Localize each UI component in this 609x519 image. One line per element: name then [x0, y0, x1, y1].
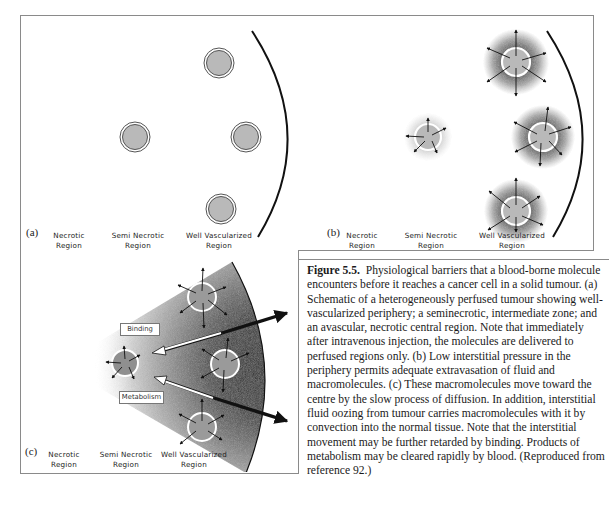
vessel-well-vascularized — [511, 105, 575, 169]
region-label-semi-necrotic: Semi Necrotic Region — [405, 231, 458, 251]
metabolism-label: Metabolism — [119, 391, 164, 404]
vessel — [204, 48, 234, 78]
region-label-semi-necrotic: Semi Necrotic Region — [112, 231, 165, 251]
region-label-line: Region — [48, 460, 79, 470]
region-label-line: Region — [100, 460, 153, 470]
region-label-line: Necrotic — [346, 231, 377, 241]
panel-b-label: (b) — [327, 226, 340, 238]
region-label-line: Well Vascularized — [161, 450, 227, 460]
vessel-well-vascularized — [483, 29, 549, 96]
region-label-necrotic: Necrotic Region — [346, 231, 377, 251]
panel-a-graphics — [120, 31, 288, 237]
figure-number: Figure 5.5. — [307, 264, 360, 277]
figure-caption: Figure 5.5. Physiological barriers that … — [307, 264, 607, 478]
region-label-line: Necrotic — [53, 231, 84, 241]
region-label-line: Region — [346, 241, 377, 251]
region-label-line: Region — [405, 241, 458, 251]
vessel — [231, 122, 261, 152]
region-label-line: Region — [186, 241, 252, 251]
figure-caption-text: Physiological barriers that a blood-born… — [307, 264, 605, 477]
vessel — [120, 122, 150, 152]
vessel — [206, 194, 236, 224]
region-label-line: Semi Necrotic — [100, 450, 153, 460]
region-label-line: Well Vascularized — [479, 231, 545, 241]
region-label-line: Semi Necrotic — [112, 231, 165, 241]
region-label-line: Semi Necrotic — [405, 231, 458, 241]
region-label-well-vascularized: Well Vascularized Region — [186, 231, 252, 251]
region-label-line: Region — [53, 241, 84, 251]
region-label-well-vascularized: Well Vascularized Region — [479, 231, 545, 251]
region-label-line: Region — [479, 241, 545, 251]
region-label-line: Region — [161, 460, 227, 470]
region-label-line: Necrotic — [48, 450, 79, 460]
region-label-line: Well Vascularized — [186, 231, 252, 241]
region-label-necrotic: Necrotic Region — [48, 450, 79, 470]
binding-label: Binding — [120, 323, 160, 336]
panel-a-label: (a) — [26, 226, 38, 238]
panel-c-label: (c) — [25, 445, 37, 457]
panel-c-graphics — [60, 262, 287, 473]
region-label-line: Region — [112, 241, 165, 251]
vessel-semi-necrotic — [404, 113, 452, 161]
region-label-necrotic: Necrotic Region — [53, 231, 84, 251]
region-label-semi-necrotic: Semi Necrotic Region — [100, 450, 153, 470]
region-label-well-vascularized: Well Vascularized Region — [161, 450, 227, 470]
panel-b-graphics — [404, 29, 583, 243]
